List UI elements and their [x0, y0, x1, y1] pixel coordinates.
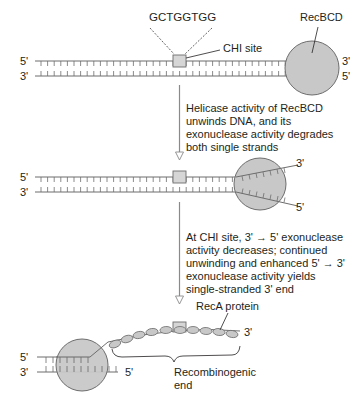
recbcd-protein-stage1	[285, 41, 339, 95]
stage1-right-top-end: 3'	[342, 55, 350, 68]
chi-site-box-stage2	[173, 171, 186, 183]
stage3-strand-3prime-end: 3'	[244, 326, 252, 339]
stage1-left-top-end: 5'	[20, 55, 28, 68]
stage3-bottom-5prime-end: 5'	[125, 366, 133, 379]
step1-description: Helicase activity of RecBCD unwinds DNA,…	[186, 102, 333, 154]
chi-site-box	[173, 55, 186, 67]
reca-protein-label: RecA protein	[196, 300, 259, 313]
stage2-left-bottom-end: 3'	[20, 186, 28, 199]
stage2-right-bottom-end: 5'	[296, 201, 304, 214]
reca-leader-line	[220, 313, 228, 330]
recbcd-protein-stage3	[56, 339, 108, 391]
stage1-right-bottom-end: 5'	[342, 70, 350, 83]
diagram-canvas	[0, 0, 363, 399]
stage2-right-top-end: 3'	[296, 157, 304, 170]
sequence-label: GCTGGTGG	[149, 11, 216, 24]
chi-site-label: CHI site	[223, 42, 262, 55]
recbcd-protein-stage2	[234, 158, 286, 210]
stage1-left-bottom-end: 3'	[20, 70, 28, 83]
stage2-left-top-end: 5'	[20, 171, 28, 184]
recombinogenic-end-label: Recombinogenic end	[174, 366, 256, 392]
sequence-callout-lines	[150, 28, 212, 54]
stage3-left-top-end: 5'	[20, 351, 28, 364]
recombinogenic-brace	[112, 346, 240, 362]
stage1-dna	[35, 61, 287, 76]
stage3-left-bottom-end: 3'	[20, 366, 28, 379]
step1-arrow	[176, 85, 184, 160]
stage2-dna	[35, 177, 236, 192]
recbcd-label: RecBCD	[300, 11, 343, 24]
chi-leader-line	[186, 50, 220, 58]
step2-arrow	[176, 202, 184, 304]
step2-description: At CHI site, 3' → 5' exonuclease activit…	[186, 231, 345, 296]
